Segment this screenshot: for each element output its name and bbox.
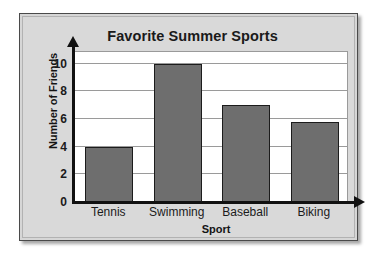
x-axis-line <box>72 201 357 204</box>
x-tick-label-baseball: Baseball <box>211 205 280 219</box>
x-axis-title: Sport <box>71 223 361 235</box>
y-tick-label-2: 2 <box>41 167 67 181</box>
y-tick-label-0: 0 <box>41 195 67 209</box>
x-axis-arrow-icon <box>354 196 365 208</box>
bar-tennis <box>85 147 133 202</box>
bar-swimming <box>154 64 202 202</box>
y-tick-label-6: 6 <box>41 112 67 126</box>
x-tick-label-tennis: Tennis <box>74 205 143 219</box>
bar-biking <box>291 122 339 202</box>
bar-baseball <box>222 105 270 202</box>
chart-panel: Favorite Summer Sports Number of Friends… <box>19 13 358 241</box>
y-axis-line <box>72 45 75 204</box>
x-tick-label-biking: Biking <box>280 205 349 219</box>
bar-series <box>75 52 347 202</box>
y-tick-label-4: 4 <box>41 140 67 154</box>
y-tick-label-10: 10 <box>41 57 67 71</box>
chart-panel-inner: Favorite Summer Sports Number of Friends… <box>22 16 355 238</box>
y-axis-arrow-icon <box>67 36 79 47</box>
y-tick-label-8: 8 <box>41 84 67 98</box>
x-tick-label-swimming: Swimming <box>143 205 212 219</box>
chart-page: Favorite Summer Sports Number of Friends… <box>0 0 388 265</box>
plot-area <box>74 51 348 203</box>
